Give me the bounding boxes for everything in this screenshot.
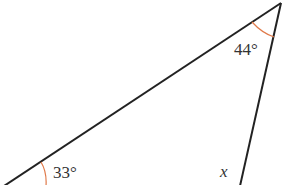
angle-arc-33 xyxy=(41,162,46,185)
triangle-figure xyxy=(0,0,285,185)
triangle-diagram: 44° 33° x xyxy=(0,0,285,185)
angle-label-44: 44° xyxy=(234,41,258,58)
angle-arc-44 xyxy=(252,22,274,37)
side-top-to-bottom-left xyxy=(4,3,281,185)
angle-label-33: 33° xyxy=(53,164,77,181)
angle-label-x: x xyxy=(220,163,228,180)
